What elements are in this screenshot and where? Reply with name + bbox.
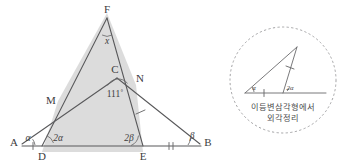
point-label-A: A — [10, 136, 18, 148]
angle-label-D: 2α — [53, 133, 64, 143]
mini-angle-label-2alpha: 2α — [287, 84, 294, 91]
figure-canvas: A B D E F C M N α 2α 2β β x 111˚ α 2α 이등… — [0, 0, 350, 165]
point-label-C: C — [111, 63, 118, 75]
point-label-E: E — [140, 150, 147, 162]
callout-caption-line2: 외각정리 — [267, 113, 299, 123]
angle-label-F: x — [104, 36, 110, 46]
point-label-F: F — [104, 3, 110, 15]
callout-caption-line1: 이등변삼각형에서 — [251, 102, 315, 112]
point-label-N: N — [136, 72, 144, 84]
shaded-region-DMFNE — [42, 13, 143, 152]
geometry-figure: A B D E F C M N α 2α 2β β x 111˚ α 2α 이등… — [0, 0, 350, 165]
angle-label-B: β — [189, 131, 195, 141]
mini-angle-label-alpha: α — [252, 84, 256, 91]
angle-label-E: 2β — [124, 133, 134, 143]
point-label-M: M — [46, 94, 56, 106]
angle-label-C: 111˚ — [107, 89, 124, 99]
point-label-B: B — [204, 136, 211, 148]
point-label-D: D — [38, 150, 46, 162]
